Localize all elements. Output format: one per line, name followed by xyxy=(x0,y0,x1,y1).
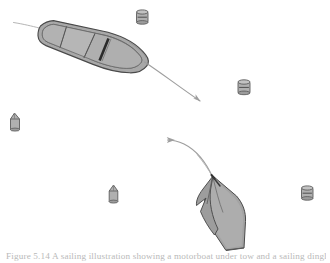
buoy-can-top-center xyxy=(137,10,149,24)
figure-illustration: Figure 5.14 A sailing illustration showi… xyxy=(0,0,330,263)
buoy-can-right-lower xyxy=(302,186,314,200)
illustration-canvas xyxy=(0,0,330,263)
dinghy-course-arrow xyxy=(168,140,214,178)
buoy-can-right-upper xyxy=(238,80,250,95)
figure-caption: Figure 5.14 A sailing illustration showi… xyxy=(6,251,326,262)
buoy-conical-center-lower xyxy=(109,185,118,203)
motorboat-course-arrow xyxy=(145,62,201,101)
vessel-sailing-dinghy xyxy=(196,155,245,251)
vessel-motorboat xyxy=(38,21,148,73)
tow-line xyxy=(14,23,39,28)
buoy-conical-left-middle xyxy=(10,113,19,131)
